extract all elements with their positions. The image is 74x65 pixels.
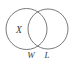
right-circle-caption-l: L (40, 51, 54, 60)
left-circle-caption-w: W (23, 51, 39, 60)
left-circle-label-x: X (12, 26, 26, 36)
venn-diagram-figure: X W L (0, 0, 74, 65)
right-circle (28, 9, 68, 49)
